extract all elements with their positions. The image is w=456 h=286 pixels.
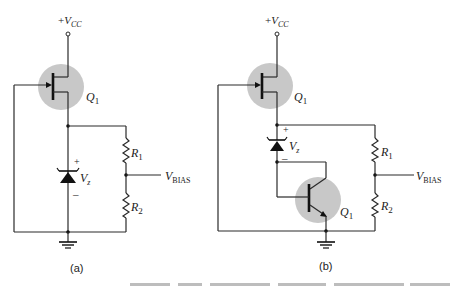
zener-minus-a: – <box>72 188 79 200</box>
circuit-figure: +VCC Q1 R1 VBIAS R2 <box>0 0 456 286</box>
r2-label-b: R2 <box>380 199 393 215</box>
vcc-terminal-a <box>66 32 70 36</box>
vbias-label-a: VBIAS <box>165 169 191 185</box>
panel-label-b: (b) <box>319 260 332 272</box>
zener-diode-b <box>267 137 287 197</box>
zener-plus-b: + <box>283 124 289 135</box>
r2-label-a: R2 <box>130 200 143 216</box>
jfet-label-a: Q1 <box>86 90 99 106</box>
r1-resistor-a <box>123 138 129 163</box>
panel-b: +VCC Q1 + – Vz <box>218 14 442 272</box>
vcc-terminal-b <box>275 32 279 36</box>
vz-label-b: Vz <box>289 139 300 155</box>
zener-plus-a: + <box>74 156 80 167</box>
panel-a: +VCC Q1 R1 VBIAS R2 <box>14 14 191 274</box>
jfet-highlight-b <box>247 63 293 109</box>
vcc-label-b: +VCC <box>265 14 289 29</box>
vcc-label-a: +VCC <box>58 14 82 29</box>
jfet-highlight-a <box>38 64 84 110</box>
jfet-label-b: Q1 <box>294 90 307 106</box>
r2-resistor-a <box>123 193 129 218</box>
bjt-label-b: Q1 <box>340 205 353 221</box>
ground-icon-b <box>317 231 335 248</box>
r1-label-a: R1 <box>130 146 143 162</box>
zener-diode-a <box>57 168 79 183</box>
r2-resistor-b <box>372 193 378 217</box>
r1-label-b: R1 <box>380 145 393 161</box>
panel-label-a: (a) <box>70 262 83 274</box>
ground-icon-a <box>59 232 77 248</box>
vbias-label-b: VBIAS <box>416 169 442 185</box>
r1-resistor-b <box>372 138 378 162</box>
vz-label-a: Vz <box>80 171 91 187</box>
